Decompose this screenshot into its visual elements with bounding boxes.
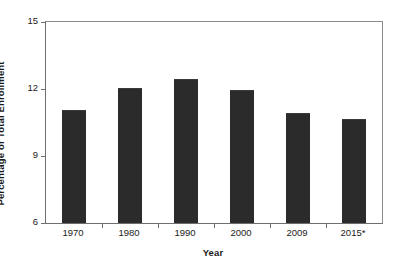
y-tick-label: 12: [16, 83, 38, 93]
y-axis-tick-labels: 691215: [14, 0, 38, 267]
y-tick-label: 6: [16, 217, 38, 227]
x-tick-label: 1970: [62, 228, 83, 238]
x-tick-label: 1980: [118, 228, 139, 238]
x-axis-tick-labels: 197019801990200020092015*: [45, 228, 381, 244]
bar: [62, 110, 87, 223]
bar: [174, 79, 199, 223]
plot-area: [45, 21, 383, 224]
x-axis-title: Year: [45, 247, 381, 258]
y-tick-label: 15: [16, 16, 38, 26]
bars-layer: [46, 22, 382, 223]
bar: [230, 90, 255, 223]
x-tick-label: 2009: [286, 228, 307, 238]
bar: [342, 119, 367, 223]
x-tick-label: 1990: [174, 228, 195, 238]
y-tick-mark: [41, 156, 46, 157]
x-tick-label: 2015*: [341, 228, 366, 238]
y-tick-mark: [41, 89, 46, 90]
bar: [118, 88, 143, 223]
bar: [286, 113, 311, 223]
y-tick-label: 9: [16, 150, 38, 160]
y-tick-mark: [41, 22, 46, 23]
x-tick-label: 2000: [230, 228, 251, 238]
bar-chart-figure: Percentage of Total Enrollment 691215 19…: [0, 0, 395, 267]
y-tick-mark: [41, 223, 46, 224]
